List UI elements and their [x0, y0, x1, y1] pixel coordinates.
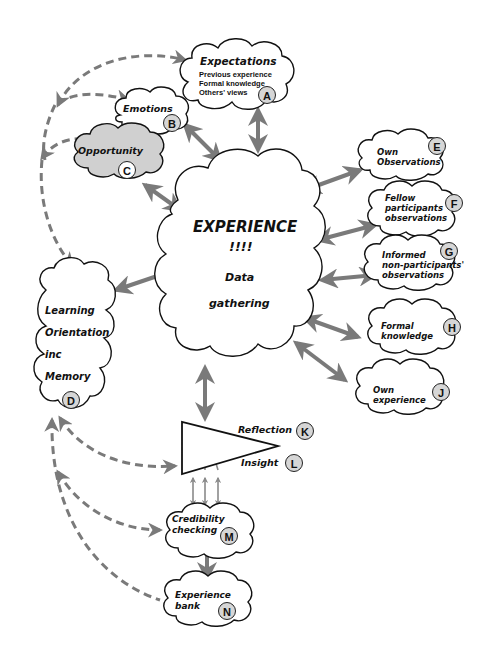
own-experience-line-1: Own: [373, 386, 394, 395]
badge-c: C: [118, 161, 136, 179]
center-line2: gathering: [209, 298, 270, 310]
emotions-label: Emotions: [123, 104, 173, 114]
expectations-label: Expectations: [200, 56, 276, 67]
own-experience-line-2: experience: [373, 396, 426, 405]
center-exclaim: !!!!: [229, 240, 253, 254]
informed-line-2: non-participants': [382, 261, 464, 270]
cloud-own-observations: [358, 129, 443, 180]
cloud-own-experience: [356, 359, 444, 414]
own-observations-line-1: Own: [377, 148, 398, 157]
expectations-line-1: Previous experience: [199, 70, 272, 79]
learning-line-1: Learning: [45, 306, 95, 317]
learning-line-4: Memory: [45, 372, 90, 383]
badge-f: F: [445, 194, 463, 212]
fellow-line-1: Fellow: [385, 194, 415, 203]
insight-label: Insight: [241, 458, 278, 468]
reflection-label: Reflection: [238, 425, 292, 435]
informed-line-1: Informed: [382, 251, 426, 260]
credibility-line-1: Credibility: [172, 515, 225, 524]
badge-k: K: [296, 422, 314, 440]
experience-bank-line-2: bank: [175, 602, 200, 611]
fellow-line-3: observations: [385, 214, 447, 223]
badge-h: H: [443, 318, 461, 336]
learning-line-3: inc: [45, 350, 61, 361]
badge-d: D: [62, 391, 80, 409]
credibility-line-2: checking: [172, 526, 217, 535]
opportunity-label: Opportunity: [78, 146, 143, 156]
badge-e: E: [428, 137, 446, 155]
badge-n: N: [218, 602, 236, 620]
badge-a: A: [258, 86, 276, 104]
learning-line-2: Orientation: [45, 328, 110, 339]
fellow-line-2: participants: [385, 204, 443, 213]
informed-line-3: observations: [382, 271, 444, 280]
own-observations-line-2: Observations: [377, 158, 441, 167]
center-title: EXPERIENCE: [193, 220, 297, 236]
expectations-line-2: Formal knowledge: [199, 79, 265, 88]
formal-knowledge-line-1: Formal: [381, 322, 414, 331]
badge-l: L: [285, 454, 303, 472]
badge-b: B: [163, 114, 181, 132]
expectations-line-3: Others' views: [199, 88, 247, 97]
formal-knowledge-line-2: knowledge: [381, 332, 433, 341]
badge-j: J: [432, 383, 450, 401]
badge-m: M: [220, 527, 238, 545]
badge-g: G: [440, 242, 458, 260]
center-line1: Data: [225, 272, 254, 284]
experience-bank-line-1: Experience: [175, 591, 231, 600]
